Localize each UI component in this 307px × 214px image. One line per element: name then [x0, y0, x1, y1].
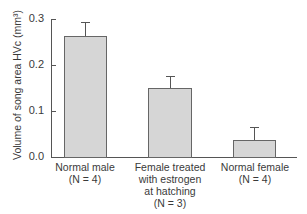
error-bar: [170, 76, 171, 88]
y-tick: [51, 111, 56, 112]
error-bar-cap: [250, 127, 259, 128]
y-tick: [51, 19, 56, 20]
y-tick-label: 0.1: [16, 104, 44, 116]
category-line: Normal female: [210, 161, 300, 173]
error-bar-cap: [81, 22, 90, 23]
y-axis: [51, 19, 52, 158]
bar-normal-male: [64, 36, 107, 158]
category-line: at hatching: [125, 185, 215, 197]
category-line: (N = 4): [210, 173, 300, 185]
x-category-label: Normal female (N = 4): [210, 161, 300, 185]
bar-female-estrogen: [148, 88, 192, 158]
category-line: Female treated: [125, 161, 215, 173]
y-tick-label: 0.2: [16, 58, 44, 70]
category-line: Normal male: [40, 161, 130, 173]
x-category-label: Normal male (N = 4): [40, 161, 130, 185]
error-bar: [85, 22, 86, 36]
y-tick-label: 0.3: [16, 12, 44, 24]
category-line: with estrogen: [125, 173, 215, 185]
y-axis-label: Volume of song area HVc (mm³): [11, 0, 23, 170]
category-line: (N = 3): [125, 197, 215, 209]
x-category-label: Female treated with estrogen at hatching…: [125, 161, 215, 209]
bar-normal-female: [233, 140, 276, 158]
y-tick: [51, 65, 56, 66]
error-bar: [254, 127, 255, 140]
category-line: (N = 4): [40, 173, 130, 185]
error-bar-cap: [166, 76, 175, 77]
